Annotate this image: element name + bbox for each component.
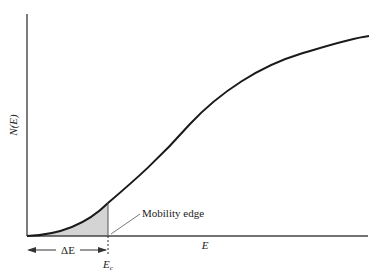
density-of-states-diagram: N(E) E Mobility edge ΔE Ec (0, 0, 379, 279)
x-axis-label: E (201, 239, 209, 251)
y-axis-label: N(E) (7, 114, 20, 137)
shaded-localized-states (35, 203, 108, 236)
arrowhead-left-icon (27, 247, 36, 253)
arrowhead-right-icon (98, 247, 107, 253)
dos-curve (27, 36, 369, 236)
edge-energy-sub: c (110, 264, 114, 272)
mobility-edge-label: Mobility edge (142, 207, 204, 219)
annotation-leader (111, 214, 140, 234)
delta-e-label: ΔE (61, 244, 75, 256)
edge-energy-label: Ec (102, 258, 114, 272)
